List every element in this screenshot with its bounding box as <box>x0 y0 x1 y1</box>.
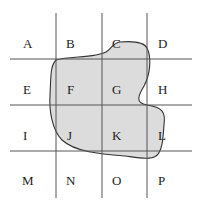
cell-label-l: L <box>158 128 166 143</box>
cell-label-d: D <box>158 36 167 51</box>
cell-label-h: H <box>158 82 167 97</box>
cell-label-n: N <box>66 173 76 188</box>
cell-label-o: O <box>112 173 121 188</box>
cell-label-f: F <box>67 82 74 97</box>
cell-label-i: I <box>23 128 27 143</box>
cell-label-c: C <box>112 36 121 51</box>
cell-label-p: P <box>158 173 165 188</box>
cell-label-m: M <box>22 173 34 188</box>
cell-label-b: B <box>66 36 75 51</box>
grid-diagram: A B C D E F G H I J K L M N O P <box>0 0 200 208</box>
cell-label-e: E <box>23 82 31 97</box>
cell-label-k: K <box>112 128 122 143</box>
cell-label-a: A <box>23 36 33 51</box>
cell-label-j: J <box>67 128 72 143</box>
cell-label-g: G <box>112 82 121 97</box>
